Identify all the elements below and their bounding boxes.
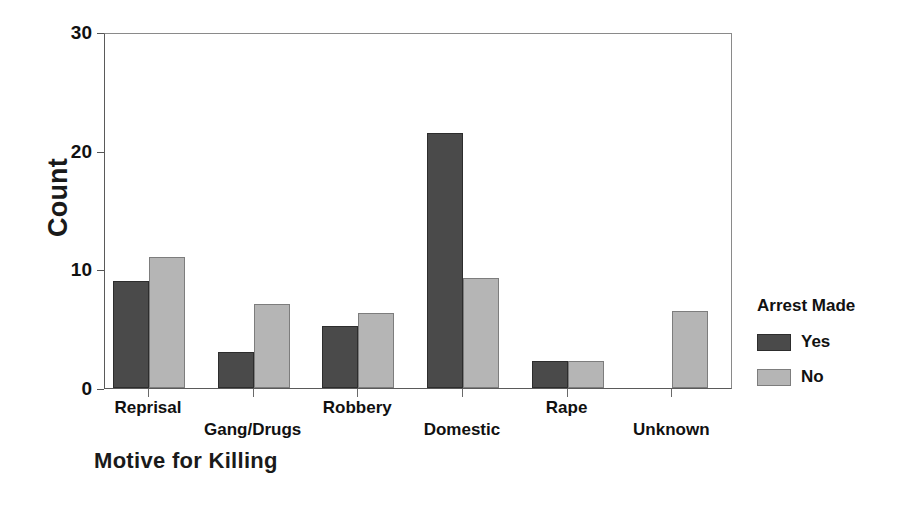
x-tick-label: Gang/Drugs	[204, 420, 301, 440]
bar-robbery-yes	[322, 326, 358, 388]
legend-label: No	[801, 367, 824, 387]
legend-item-no: No	[757, 367, 897, 387]
light-gray-swatch	[757, 369, 791, 386]
x-tick-label: Unknown	[633, 420, 710, 440]
bar-robbery-no	[358, 313, 394, 388]
legend-title: Arrest Made	[757, 296, 897, 316]
bar-unknown-no	[672, 311, 708, 388]
legend-label: Yes	[801, 332, 830, 352]
x-tick-mark	[253, 389, 254, 397]
y-tick-label: 20	[48, 142, 92, 161]
x-tick-mark	[357, 389, 358, 397]
x-tick-label: Robbery	[323, 398, 392, 418]
legend: Arrest Made YesNo	[757, 296, 897, 402]
bar-domestic-yes	[427, 133, 463, 388]
x-tick-label: Rape	[546, 398, 588, 418]
legend-item-yes: Yes	[757, 332, 897, 352]
y-tick-label: 30	[48, 23, 92, 42]
x-tick-label: Reprisal	[114, 398, 181, 418]
bar-gang-drugs-yes	[218, 352, 254, 388]
y-tick-label: 0	[48, 379, 92, 398]
y-tick-label: 10	[48, 260, 92, 279]
bar-reprisal-yes	[113, 281, 149, 388]
x-axis-title: Motive for Killing	[94, 448, 278, 474]
plot-area	[104, 33, 732, 389]
dark-gray-swatch	[757, 334, 791, 351]
bar-domestic-no	[463, 278, 499, 388]
bar-gang-drugs-no	[254, 304, 290, 388]
y-tick-mark	[97, 389, 104, 390]
y-tick-mark	[97, 270, 104, 271]
y-tick-mark	[97, 152, 104, 153]
y-tick-mark	[97, 33, 104, 34]
legend-rows: YesNo	[757, 332, 897, 387]
bar-rape-yes	[532, 361, 568, 388]
bar-rape-no	[568, 361, 604, 388]
x-tick-label: Domestic	[424, 420, 501, 440]
x-tick-mark	[567, 389, 568, 397]
x-tick-mark	[462, 389, 463, 397]
bar-reprisal-no	[149, 257, 185, 388]
x-tick-mark	[148, 389, 149, 397]
x-tick-mark	[671, 389, 672, 397]
bars-layer	[105, 34, 731, 388]
bar-chart-figure: Count 0102030 ReprisalGang/DrugsRobberyD…	[0, 0, 898, 505]
